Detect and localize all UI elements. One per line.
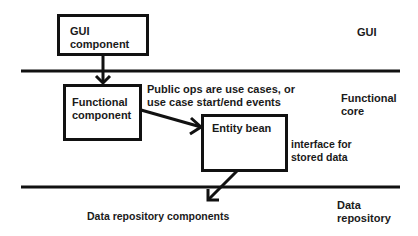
gui-component-label: GUI component	[70, 25, 129, 51]
entity-bean-box: Entity bean	[201, 114, 288, 172]
layer-label-data-repository: Data repository	[337, 199, 391, 225]
entity-bean-label: Entity bean	[212, 122, 271, 135]
layer-label-gui: GUI	[357, 26, 377, 39]
functional-component-label: Functional component	[72, 96, 131, 122]
gui-component-box: GUI component	[57, 14, 149, 56]
interface-annotation: interface for stored data	[291, 138, 352, 164]
arrow-functional-to-entity	[141, 110, 201, 134]
public-ops-annotation: Public ops are use cases, or use case st…	[147, 83, 295, 109]
layer-label-functional-core: Functional core	[341, 92, 397, 118]
arrow-gui-to-functional	[96, 55, 110, 83]
functional-component-box: Functional component	[63, 84, 142, 141]
data-repository-components-label: Data repository components	[87, 210, 229, 223]
layered-architecture-diagram: GUI component Functional component Entit…	[0, 0, 418, 236]
